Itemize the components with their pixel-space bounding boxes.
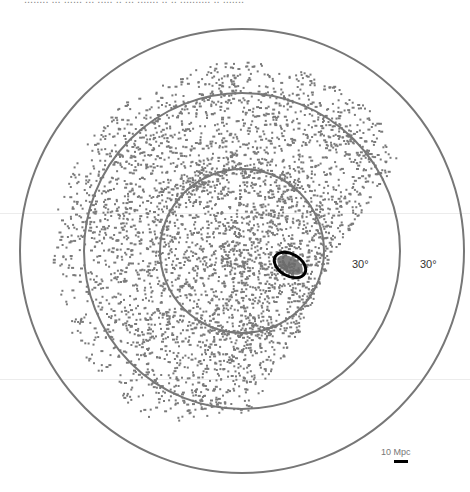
circle-outer: [20, 29, 464, 473]
angle-label-outer: 30°: [420, 258, 437, 270]
scale-bar-label: 10 Mpc: [381, 447, 411, 457]
distance-circles: [20, 29, 464, 473]
scale-bar: [394, 460, 408, 463]
angle-label-inner: 30°: [352, 258, 369, 270]
galaxy-survey-map: [0, 0, 470, 492]
galaxy-points: [53, 62, 398, 422]
circle-inner: [160, 169, 324, 333]
